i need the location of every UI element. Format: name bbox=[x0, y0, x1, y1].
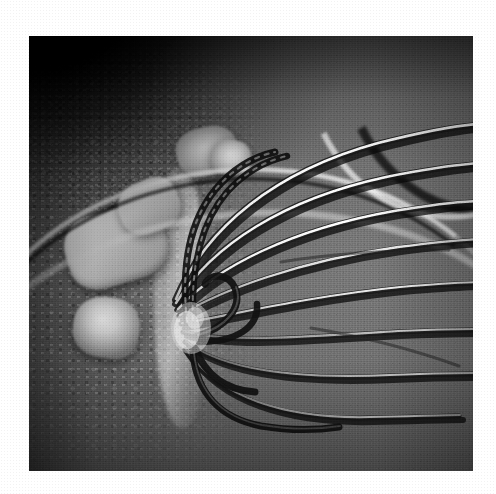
edge-vignette bbox=[29, 36, 473, 471]
screenshot-canvas bbox=[0, 0, 496, 494]
photograph bbox=[29, 36, 473, 471]
